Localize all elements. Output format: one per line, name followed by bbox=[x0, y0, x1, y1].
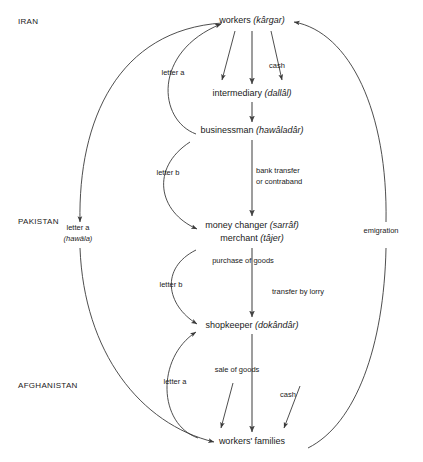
edge-labels: letter a cash letter b bank transfer or … bbox=[64, 61, 399, 399]
edge-label-transfer-by-lorry: transfer by lorry bbox=[272, 287, 324, 296]
edge-label-sale-of-goods: sale of goods bbox=[215, 365, 260, 374]
edge-label-bank-transfer: bank transfer bbox=[256, 166, 300, 175]
edge-label-cash-bottom: cash bbox=[280, 390, 296, 399]
node-workers-families: workers' families bbox=[218, 436, 286, 446]
node-merchant-english: merchant bbox=[220, 233, 258, 243]
edge-letter-a-to-workers bbox=[168, 24, 221, 134]
edge-label-or-contraband: or contraband bbox=[256, 177, 302, 186]
node-merchant: merchant (tâjer) bbox=[220, 233, 284, 243]
node-businessman: businessman (hawâladâr) bbox=[200, 125, 303, 135]
node-shopkeeper-term: (dokândâr) bbox=[255, 320, 299, 330]
region-labels: IRAN PAKISTAN AFGHANISTAN bbox=[18, 17, 78, 390]
edge-letter-b-to-money-changer bbox=[164, 142, 197, 229]
node-money-changer: money changer (sarrâf) bbox=[205, 220, 299, 230]
edge-label-emigration: emigration bbox=[363, 226, 398, 235]
node-money-changer-english: money changer bbox=[205, 220, 267, 230]
node-intermediary-english: intermediary bbox=[212, 88, 262, 98]
edge-label-cash-top: cash bbox=[269, 61, 285, 70]
node-workers-term: (kârgar) bbox=[253, 15, 285, 25]
region-label-afghanistan: AFGHANISTAN bbox=[18, 381, 78, 390]
edge-label-letter-b-lower: letter b bbox=[160, 280, 183, 289]
node-intermediary-term: (dallâl) bbox=[265, 88, 292, 98]
diagram-root: IRAN PAKISTAN AFGHANISTAN workers (kârga… bbox=[0, 0, 423, 462]
node-businessman-english: businessman bbox=[200, 125, 253, 135]
node-workers-families-english: workers' families bbox=[218, 436, 286, 446]
edge-workers-left-to-intermediary bbox=[222, 31, 235, 80]
edge-hawala-lower-segment bbox=[80, 248, 214, 442]
node-shopkeeper: shopkeeper (dokândâr) bbox=[205, 320, 298, 330]
edge-emigration-upper-segment bbox=[294, 22, 386, 222]
node-workers: workers (kârgar) bbox=[218, 15, 285, 25]
edge-label-hawala-term: (hawâla) bbox=[64, 234, 93, 243]
node-merchant-term: (tâjer) bbox=[260, 233, 284, 243]
edge-emigration-lower-segment bbox=[308, 248, 386, 448]
node-businessman-term: (hawâladâr) bbox=[256, 125, 304, 135]
edge-label-letter-a-hawala: letter a bbox=[67, 223, 91, 232]
edge-label-letter-b-upper: letter b bbox=[157, 168, 180, 177]
edge-cash-to-intermediary bbox=[271, 31, 282, 80]
hawala-curve-edge bbox=[80, 23, 222, 442]
region-label-iran: IRAN bbox=[18, 17, 38, 26]
node-workers-english: workers bbox=[218, 15, 251, 25]
edge-label-letter-a-top: letter a bbox=[162, 68, 186, 77]
edge-hawala-upper-segment bbox=[80, 23, 222, 222]
node-money-changer-term: (sarrâf) bbox=[270, 220, 299, 230]
edge-label-letter-a-bottom: letter a bbox=[164, 377, 188, 386]
node-intermediary: intermediary (dallâl) bbox=[212, 88, 291, 98]
node-shopkeeper-english: shopkeeper bbox=[205, 320, 252, 330]
region-label-pakistan: PAKISTAN bbox=[18, 217, 59, 226]
edge-label-purchase-of-goods: purchase of goods bbox=[212, 256, 274, 265]
diagram-canvas: IRAN PAKISTAN AFGHANISTAN workers (kârga… bbox=[0, 0, 423, 462]
letter-curve-edges bbox=[164, 24, 221, 438]
emigration-curve-edge bbox=[294, 22, 386, 448]
edge-sale-of-goods-to-families bbox=[221, 383, 233, 428]
